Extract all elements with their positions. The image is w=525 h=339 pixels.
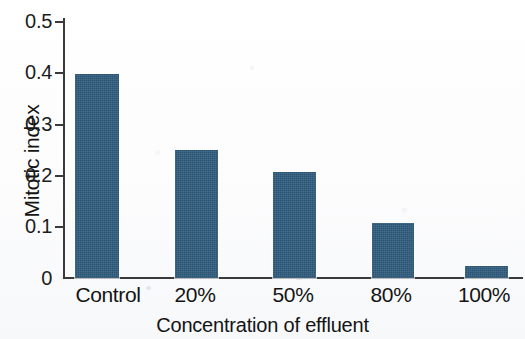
- y-tick-mark-0.3: [55, 124, 63, 126]
- y-tick-mark-0.2: [55, 175, 63, 177]
- y-tick-label: 0.5: [4, 11, 52, 31]
- bar-control: [75, 74, 119, 278]
- bar-chart-figure: Mitotic index 0.5 0.4 0.3 0.2 0.1 0 Cont…: [0, 0, 525, 339]
- y-tick-label: 0: [4, 268, 52, 288]
- y-tick-mark-0.4: [55, 72, 63, 74]
- x-tick-label-control: Control: [53, 283, 163, 307]
- x-tick-label-100-percent: 100%: [443, 283, 525, 307]
- x-tick-label-80-percent: 80%: [352, 283, 430, 307]
- x-tick-label-20-percent: 20%: [156, 283, 234, 307]
- y-tick-mark-0.5: [55, 21, 63, 23]
- y-tick-label: 0.2: [4, 165, 52, 185]
- y-tick-label: 0.3: [4, 114, 52, 134]
- bar-100-percent: [465, 266, 508, 278]
- plot-area: [63, 16, 518, 278]
- bar-50-percent: [273, 172, 316, 278]
- y-tick-label: 0.1: [4, 216, 52, 236]
- bar-20-percent: [175, 150, 218, 278]
- y-tick-label: 0.4: [4, 62, 52, 82]
- bar-80-percent: [372, 223, 414, 278]
- x-axis-title: Concentration of effluent: [0, 314, 525, 336]
- y-tick-mark-0.1: [55, 226, 63, 228]
- x-tick-label-50-percent: 50%: [254, 283, 332, 307]
